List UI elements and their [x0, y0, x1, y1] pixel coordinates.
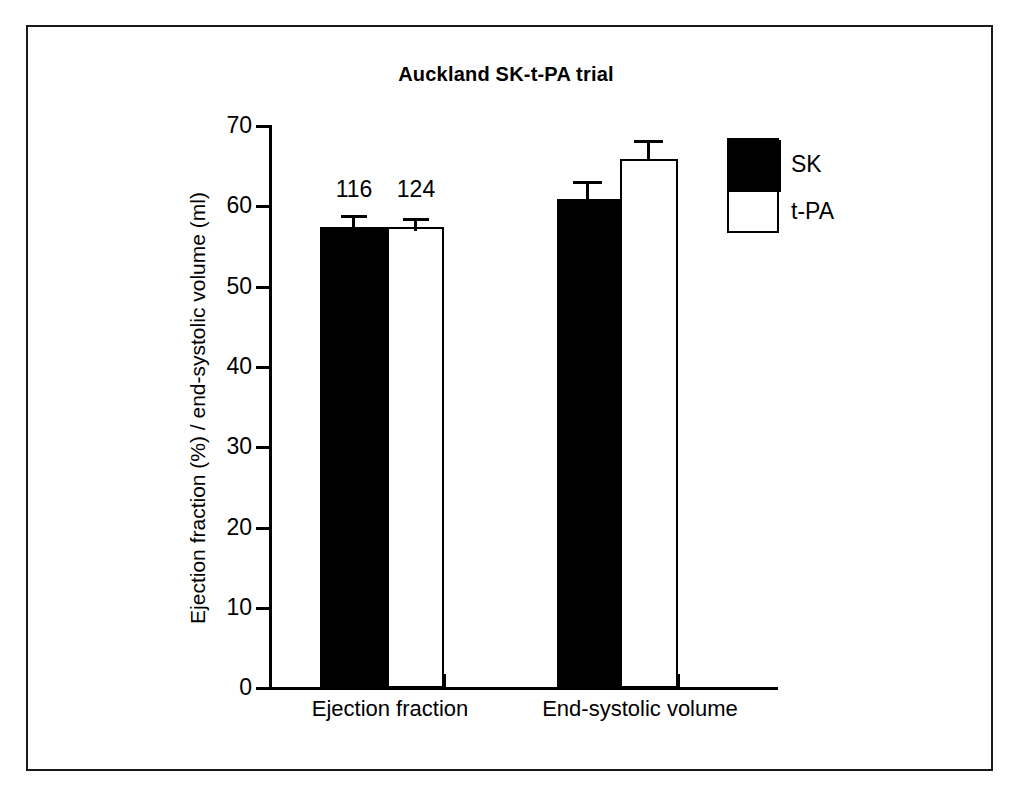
errorbar-cap-tpa-ejection-fraction [403, 218, 429, 221]
legend: SK t-PA [727, 138, 779, 233]
y-tick-label-wrap-20: 20 [186, 516, 252, 539]
y-tick-label-wrap-40: 40 [186, 355, 252, 378]
bar-sk-end-systolic-volume[interactable] [557, 199, 621, 688]
legend-swatch-box [727, 138, 779, 233]
y-tick-label-30: 30 [194, 435, 252, 458]
bar-tpa-end-systolic-volume[interactable] [620, 159, 678, 688]
errorbar-stem-tpa-end-systolic-volume [647, 141, 650, 161]
y-tick-40 [256, 366, 270, 369]
y-tick-label-wrap-50: 50 [186, 275, 252, 298]
y-tick-label-70: 70 [194, 114, 252, 137]
legend-label-tpa: t-PA [791, 200, 834, 223]
y-tick-label-wrap-60: 60 [186, 194, 252, 217]
errorbar-cap-sk-ejection-fraction [341, 215, 367, 218]
y-tick-20 [256, 527, 270, 530]
y-tick-0 [256, 687, 270, 690]
y-tick-label-60: 60 [194, 194, 252, 217]
errorbar-stem-sk-ejection-fraction [352, 216, 355, 230]
y-tick-label-20: 20 [194, 516, 252, 539]
plot-area: Ejection fraction (%) / end-systolic vol… [0, 0, 1012, 795]
y-tick-label-50: 50 [194, 275, 252, 298]
y-tick-label-40: 40 [194, 355, 252, 378]
y-tick-10 [256, 607, 270, 610]
figure: Auckland SK-t-PA trial Ejection fraction… [0, 0, 1012, 795]
x-tick-left [269, 674, 272, 690]
x-category-label-ejection-fraction: Ejection fraction [270, 696, 510, 722]
bar-label-sk-ejection-fraction: 116 [324, 178, 384, 201]
errorbar-cap-sk-end-systolic-volume [573, 181, 602, 184]
y-tick-label-wrap-70: 70 [186, 114, 252, 137]
y-tick-30 [256, 446, 270, 449]
y-tick-50 [256, 286, 270, 289]
x-category-label-end-systolic-volume: End-systolic volume [495, 696, 785, 722]
y-tick-70 [256, 125, 270, 128]
legend-label-sk: SK [791, 153, 822, 176]
bar-label-tpa-ejection-fraction: 124 [386, 178, 446, 201]
errorbar-stem-sk-end-systolic-volume [586, 182, 589, 202]
y-tick-label-wrap-30: 30 [186, 435, 252, 458]
bar-sk-ejection-fraction[interactable] [320, 227, 388, 688]
y-tick-60 [256, 205, 270, 208]
y-tick-label-10: 10 [194, 596, 252, 619]
errorbar-cap-tpa-end-systolic-volume [634, 140, 663, 143]
y-tick-label-wrap-0: 0 [186, 676, 252, 699]
y-tick-label-wrap-10: 10 [186, 596, 252, 619]
legend-swatch-sk [729, 140, 781, 192]
y-tick-label-0: 0 [194, 676, 252, 699]
y-axis-line [269, 125, 272, 689]
bar-tpa-ejection-fraction[interactable] [387, 227, 444, 688]
